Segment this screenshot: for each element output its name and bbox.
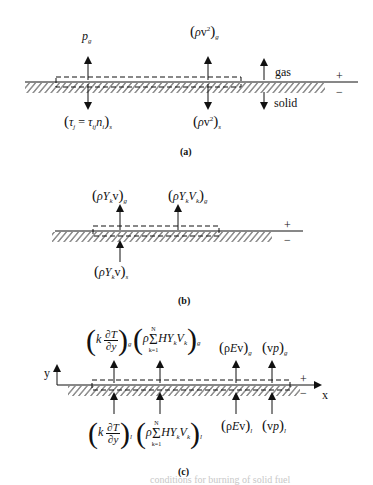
label-minus: − [284, 234, 291, 246]
panel-a [25, 60, 358, 106]
panel-b [52, 208, 303, 262]
label-species-enthalpy-gas: (ρNΣk=1HYkVk)g [133, 324, 201, 354]
label-pressure-gas: pg [82, 30, 92, 45]
bleed-through-text: conditions for burning of solid fuel [150, 474, 290, 485]
label-pressure-work-solid: (vp)l [262, 418, 286, 435]
label-energy-solid: (ρEv)l [221, 418, 252, 435]
label-species-enthalpy-solid: (ρNΣk=1HYkVk)l [136, 418, 202, 448]
label-y-axis: y [44, 367, 50, 379]
label-minus: − [300, 387, 307, 399]
solid-hatch [25, 83, 325, 93]
solid-hatch [68, 386, 300, 396]
label-species-conv-solid: (ρYkv)s [94, 264, 128, 281]
label-conduction-gas: (k ∂T∂y)g [86, 325, 131, 355]
label-momentum-gas: (ρv2)g [190, 24, 219, 41]
label-conduction-solid: (k ∂T∂y)l [88, 418, 132, 448]
label-energy-gas: (ρEv)g [219, 340, 252, 357]
label-species-conv-gas: (ρYkv)g [92, 188, 127, 205]
label-momentum-solid: (ρv2)s [193, 114, 221, 131]
label-gas: gas [275, 66, 291, 78]
caption-a: (a) [180, 146, 192, 157]
label-pressure-work-gas: (vp)g [262, 340, 288, 357]
label-stress-solid: (τj = τijni)s [64, 114, 112, 131]
label-minus: − [336, 86, 343, 98]
solid-hatch [52, 232, 272, 242]
panel-c [57, 364, 318, 414]
caption-b: (b) [178, 295, 190, 306]
label-plus: + [284, 219, 291, 231]
label-species-diff-gas: (ρYkVk)g [168, 188, 208, 205]
label-plus: + [336, 70, 343, 82]
label-x-axis: x [322, 389, 328, 401]
label-plus: + [300, 373, 307, 385]
diagram-canvas [0, 0, 373, 485]
label-solid: solid [274, 97, 297, 109]
